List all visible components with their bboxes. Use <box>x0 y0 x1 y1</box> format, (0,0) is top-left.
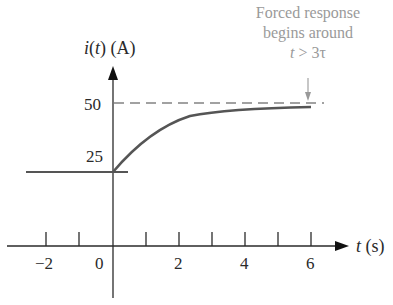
annotation-line-2: begins around <box>243 23 373 43</box>
x-tick-4: 4 <box>240 255 249 272</box>
x-axis-label: t (s) <box>356 237 385 255</box>
annotation-arrow-icon <box>305 92 311 101</box>
x-ticks <box>46 232 311 246</box>
x-tick-6: 6 <box>306 255 315 272</box>
annotation-line-3: t > 3τ <box>243 43 373 63</box>
y-axis-label: i(t) (A) <box>84 39 136 57</box>
y-axis-label-unit: ) (A) <box>100 38 135 58</box>
x-tick-2: 2 <box>174 255 183 272</box>
x-tick-0: 0 <box>95 255 104 272</box>
y-axis-arrow-icon <box>108 66 118 80</box>
y-tick-25: 25 <box>86 148 103 165</box>
x-tick--2: −2 <box>35 255 53 272</box>
current-response-curve <box>113 107 311 172</box>
annotation-line-1: Forced response <box>243 3 373 23</box>
y-tick-50: 50 <box>84 96 101 113</box>
x-axis-arrow-icon <box>335 241 349 251</box>
annotation-condition: > 3τ <box>295 44 326 61</box>
x-axis-label-unit: (s) <box>361 236 385 256</box>
forced-response-annotation: Forced response begins around t > 3τ <box>243 3 373 63</box>
